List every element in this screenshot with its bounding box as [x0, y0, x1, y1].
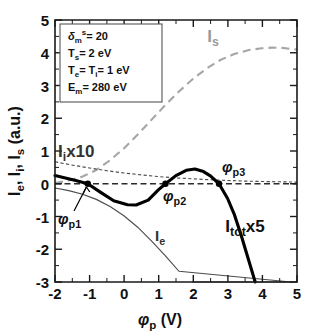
xtick-label-3: 1: [155, 285, 163, 302]
xaxis-phi-symbol: φ: [138, 311, 149, 328]
marker-phi-p1: [85, 181, 91, 187]
x-axis-title: φp (V): [138, 311, 182, 331]
xaxis-unit: (V): [156, 311, 182, 328]
y-axis-title: Ie, Ii, Is (a.u.): [6, 106, 26, 196]
ytick-label-5: 0: [41, 176, 49, 193]
ytick-label-8: -3: [36, 274, 49, 291]
marker-phi-p3: [216, 181, 222, 187]
marker-phi-p2: [162, 181, 168, 187]
xtick-label-4: 2: [189, 285, 197, 302]
xaxis-phi-sub: p: [149, 319, 156, 331]
plot-svg: -2 -1 0 1 2 3 4 5 5 4 3 2 1 0 -1 -2 -3 φ…: [0, 0, 319, 336]
xtick-label-0: -2: [48, 285, 61, 302]
xtick-label-5: 3: [224, 285, 232, 302]
ytick-label-0: 5: [41, 12, 49, 29]
svg-text:Ie, Ii, Is (a.u.): Ie, Ii, Is (a.u.): [6, 106, 26, 196]
ytick-label-3: 2: [41, 110, 49, 127]
ytick-label-4: 1: [41, 143, 49, 160]
ytick-label-6: -1: [36, 209, 49, 226]
xtick-label-2: 0: [120, 285, 128, 302]
svg-text:φp (V): φp (V): [138, 311, 182, 331]
chart-figure: -2 -1 0 1 2 3 4 5 5 4 3 2 1 0 -1 -2 -3 φ…: [0, 0, 319, 336]
ytick-label-2: 3: [41, 78, 49, 95]
xtick-label-7: 5: [293, 285, 301, 302]
ytick-label-7: -2: [36, 241, 49, 258]
ytick-label-1: 4: [41, 45, 50, 62]
xtick-label-1: -1: [83, 285, 96, 302]
xtick-label-6: 4: [258, 285, 267, 302]
